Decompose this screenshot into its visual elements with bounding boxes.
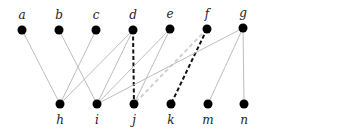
edge-e-j	[134, 29, 170, 104]
node-label-j: j	[129, 113, 136, 127]
node-f	[203, 25, 212, 34]
node-m	[204, 100, 213, 109]
node-label-d: d	[129, 8, 137, 22]
edge-a-h	[22, 30, 60, 104]
node-a	[18, 26, 27, 35]
node-g	[239, 24, 248, 33]
node-label-h: h	[56, 113, 64, 127]
bipartite-graph: abcdefghijkmn	[0, 0, 363, 128]
node-label-k: k	[167, 113, 174, 127]
node-label-m: m	[202, 113, 213, 127]
edge-d-h	[60, 30, 133, 104]
edge-d-i	[97, 30, 133, 104]
node-d	[129, 26, 138, 35]
node-e	[166, 25, 175, 34]
edge-f-j	[134, 29, 207, 104]
node-c	[92, 26, 101, 35]
node-j	[130, 100, 139, 109]
node-label-e: e	[166, 7, 173, 21]
node-i	[93, 100, 102, 109]
node-b	[55, 26, 64, 35]
edges-layer	[22, 28, 244, 104]
node-label-i: i	[95, 113, 99, 127]
node-h	[56, 100, 65, 109]
edge-c-h	[60, 30, 96, 104]
node-label-a: a	[18, 8, 25, 22]
node-k	[167, 100, 176, 109]
node-label-c: c	[93, 8, 100, 22]
edge-g-n	[243, 28, 244, 104]
edge-g-m	[208, 28, 243, 104]
edge-f-k	[171, 29, 207, 104]
node-label-g: g	[239, 6, 247, 20]
node-n	[240, 100, 249, 109]
node-label-f: f	[204, 7, 212, 21]
node-label-b: b	[55, 8, 63, 22]
node-label-n: n	[240, 113, 248, 127]
edge-g-i	[97, 28, 243, 104]
